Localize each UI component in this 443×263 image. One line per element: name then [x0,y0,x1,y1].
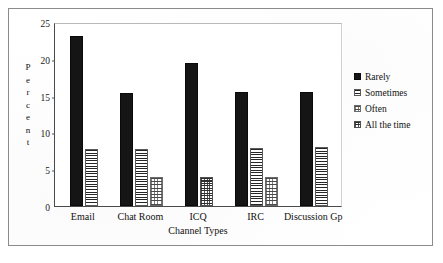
bar-rarely-discussion-gp [300,92,313,206]
legend-swatch-often [354,105,361,112]
y-axis-title-letter: t [21,136,35,149]
bar-often-irc [265,177,278,206]
x-axis-tick-label: IRC [247,211,264,222]
y-axis-title: Percent [21,61,35,149]
bar-group [285,24,343,206]
y-axis-tick-label: 25 [41,19,56,29]
y-axis-title-letter: e [21,111,35,124]
plot-area: 0510152025 [54,23,342,207]
bar-rarely-email [70,36,83,206]
bar-sometimes-chat-room [135,149,148,206]
figure-frame: Percent 0510152025 EmailChat RoomICQIRCD… [8,8,433,246]
y-axis-title-letter: e [21,74,35,87]
bars-layer [55,24,341,206]
bar-sometimes-discussion-gp [315,147,328,206]
legend-label: All the time [365,120,410,130]
legend-item-often: Often [354,101,432,116]
x-axis-tick-label: Email [71,211,95,222]
legend: RarelySometimesOftenAll the time [354,69,432,133]
y-axis-title-letter: n [21,124,35,137]
bar-group [170,24,228,206]
y-axis-title-letter: P [21,61,35,74]
bar-all-the-time-icq [200,177,213,206]
bar-group [55,24,113,206]
legend-swatch-all-the-time [354,121,361,128]
x-axis-tick-label: Chat Room [117,211,163,222]
y-axis-tick-label: 0 [45,203,55,213]
x-axis-title: Channel Types [54,225,342,236]
legend-swatch-sometimes [354,89,361,96]
bar-sometimes-email [85,149,98,206]
bar-often-chat-room [150,177,163,206]
bar-rarely-irc [235,92,248,206]
x-axis-tick-label: ICQ [189,211,206,222]
legend-item-sometimes: Sometimes [354,85,432,100]
legend-label: Sometimes [365,88,407,98]
bar-rarely-chat-room [120,93,133,206]
legend-item-all-the-time: All the time [354,117,432,132]
legend-label: Rarely [365,72,390,82]
bar-group [228,24,286,206]
y-axis-title-letter: c [21,99,35,112]
bar-group [113,24,171,206]
legend-label: Often [365,104,387,114]
bar-rarely-icq [185,63,198,206]
x-axis-tick-label: Discussion Gp [284,211,343,222]
legend-swatch-rarely [354,73,361,80]
y-axis-title-letter: r [21,86,35,99]
legend-item-rarely: Rarely [354,69,432,84]
bar-sometimes-irc [250,148,263,206]
bar-chart: Percent 0510152025 EmailChat RoomICQIRCD… [9,9,434,247]
